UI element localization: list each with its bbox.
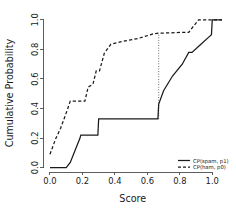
y-tick-label: 0.6 [31,72,41,85]
y-axis-title: Cumulative Probability [4,38,15,147]
chart-legend: CP(spam, p1)CP(ham, p0) [178,158,229,172]
legend-label: CP(ham, p0) [193,164,226,171]
axis-lines [44,20,213,172]
y-tick-label: 1.0 [31,13,41,26]
x-tick-label: 0.4 [108,176,121,186]
ecdf-chart-figure: 0.00.20.40.60.81.0 0.00.20.40.60.81.0 Cu… [0,0,236,211]
x-axis-title: Score [119,193,146,204]
y-tick-label: 0.8 [31,43,41,56]
x-tick-label: 0.8 [173,176,186,186]
x-tick-label: 0.2 [76,176,89,186]
x-tick-label: 0.6 [141,176,154,186]
x-tick-label: 1.0 [206,176,219,186]
x-axis-ticks: 0.00.20.40.60.81.0 [43,172,219,186]
spam-cumulative-curve [50,20,222,168]
data-series-group [50,20,222,168]
y-axis-ticks: 0.00.20.40.60.81.0 [31,13,44,174]
ham-cumulative-curve [50,20,222,154]
x-tick-label: 0.0 [43,176,56,186]
y-tick-label: 0.4 [31,102,41,115]
y-tick-label: 0.0 [31,161,41,174]
plot-canvas: 0.00.20.40.60.81.0 0.00.20.40.60.81.0 Cu… [0,0,236,211]
y-tick-label: 0.2 [31,131,41,144]
